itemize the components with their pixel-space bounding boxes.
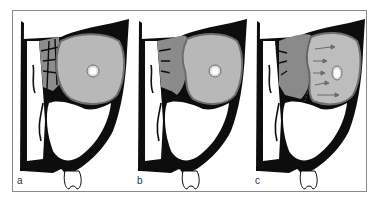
tooth <box>182 171 199 189</box>
orbital-abscess <box>279 34 311 99</box>
orbit-diagram-a <box>13 11 131 191</box>
panel-a: a <box>13 11 131 191</box>
orbit-diagram-b <box>131 11 249 191</box>
maxillary-sinus <box>283 101 347 160</box>
panel-label-c: c <box>255 176 260 186</box>
panel-label-a: a <box>17 176 23 186</box>
panel-b: b <box>131 11 249 191</box>
panel-c: c <box>249 11 367 191</box>
tooth <box>300 171 317 189</box>
panel-label-b: b <box>137 176 143 186</box>
maxillary-sinus <box>165 101 229 160</box>
maxillary-sinus <box>47 101 111 160</box>
orbit-diagram-c <box>249 11 367 191</box>
figure-frame: a b <box>12 10 367 192</box>
tooth <box>64 171 81 189</box>
